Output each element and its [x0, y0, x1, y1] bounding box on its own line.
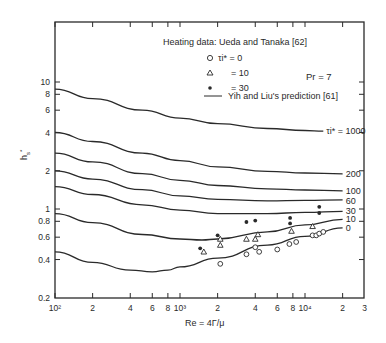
x-tick-label: 3: [362, 303, 367, 313]
curve-label: 60: [346, 196, 356, 206]
y-tick-label: 0.8: [38, 216, 50, 226]
legend-heading: Heating data: Ueda and Tanaka [62]: [163, 37, 307, 47]
curve-labels: τi* = 10002001006030100: [326, 126, 365, 233]
y-axis-label: hs*: [19, 149, 31, 160]
open-circle-point: [257, 249, 262, 254]
plot-frame: [55, 22, 364, 298]
x-tick-label: 10²: [49, 303, 61, 313]
filled-circle-point: [288, 216, 292, 220]
curve-200: [55, 133, 343, 174]
open-triangle-point: [289, 228, 295, 233]
filled-circle-point: [317, 205, 321, 209]
x-tick-label: 10³: [174, 303, 186, 313]
x-tick-label: 8: [291, 303, 296, 313]
y-tick-label: 2: [45, 166, 50, 176]
y-tick-label: 4: [45, 128, 50, 138]
legend: Heating data: Ueda and Tanaka [62] τi* =…: [163, 37, 338, 101]
y-tick-label: 1: [45, 204, 50, 214]
open-circle-point: [294, 240, 299, 245]
filled-circle-point: [288, 222, 292, 226]
open-triangle-icon: [207, 70, 213, 75]
filled-circle-point: [216, 233, 220, 237]
open-circle-point: [244, 252, 249, 257]
x-tick-label: 6: [150, 303, 155, 313]
y-tick-label: 10: [41, 77, 51, 87]
curve-label: 200: [346, 169, 361, 179]
prediction-curves: [55, 89, 343, 272]
filled-circle-icon: [208, 86, 212, 90]
open-circle-point: [321, 230, 326, 235]
legend-entry-3: Yih and Liu's prediction [61]: [228, 91, 338, 101]
curve-100: [55, 153, 343, 191]
curve-label: τi* = 1000: [326, 126, 365, 136]
legend-entry-0: τi* = 0: [218, 53, 242, 63]
filled-circle-point: [317, 211, 321, 215]
curve-0: [55, 228, 343, 272]
x-tick-label: 10⁴: [298, 303, 311, 313]
legend-entry-1: = 10: [231, 68, 249, 78]
y-tick-label: 0.6: [38, 232, 50, 242]
filled-circle-point: [198, 246, 202, 250]
x-tick-label: 2: [215, 303, 220, 313]
pr-annotation: Pr = 7: [306, 71, 332, 82]
x-axis-ticks: 10²246810³246810⁴23: [49, 22, 367, 313]
y-tick-label: 0.2: [38, 293, 50, 303]
filled-circle-point: [245, 220, 249, 224]
open-circle-point: [287, 242, 292, 247]
filled-circle-point: [253, 219, 257, 223]
x-tick-label: 8: [166, 303, 171, 313]
x-tick-label: 4: [253, 303, 258, 313]
y-tick-label: 8: [45, 89, 50, 99]
curve-60: [55, 171, 343, 201]
open-triangle-point: [244, 236, 250, 241]
open-circle-point: [253, 245, 258, 250]
y-tick-label: 6: [45, 105, 50, 115]
chart: 10²246810³246810⁴23 0.20.40.60.81246810 …: [0, 0, 386, 343]
x-axis-label: Re = 4Γ/μ: [185, 318, 224, 328]
open-triangle-point: [201, 249, 207, 254]
open-circle-point: [218, 261, 223, 266]
y-tick-label: 0.4: [38, 255, 50, 265]
x-tick-label: 2: [340, 303, 345, 313]
x-tick-label: 6: [275, 303, 280, 313]
open-triangle-point: [217, 242, 223, 247]
x-tick-label: 4: [128, 303, 133, 313]
curve-label: 0: [346, 223, 351, 233]
open-circle-icon: [207, 55, 212, 60]
open-circle-point: [275, 247, 280, 252]
curve-label: 100: [346, 186, 361, 196]
x-tick-label: 2: [90, 303, 95, 313]
